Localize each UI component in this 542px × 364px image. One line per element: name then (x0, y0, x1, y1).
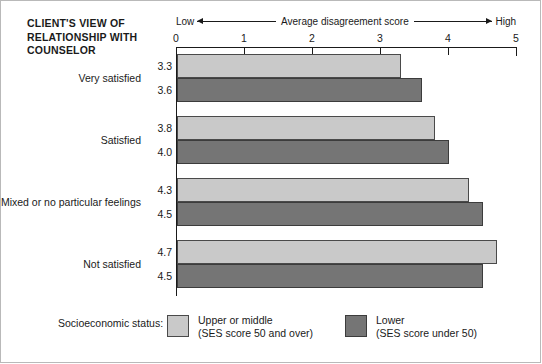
axis-caption-high: High (492, 16, 516, 27)
bar: 3.3 (177, 54, 401, 78)
category-label: Not satisfied (0, 258, 141, 271)
legend: Socioeconomic status: Upper or middle(SE… (0, 310, 542, 352)
bar-value-label: 3.6 (157, 84, 172, 96)
bar-value-label: 4.5 (157, 270, 172, 282)
legend-label-main: Lower (376, 314, 477, 327)
x-axis-tick-label: 2 (309, 32, 315, 44)
x-axis-tick-label: 1 (241, 32, 247, 44)
axis-caption-middle: Average disagreement score (276, 16, 414, 27)
category-label: Very satisfied (0, 72, 141, 85)
x-axis-tick (516, 47, 517, 56)
legend-item: Upper or middle(SES score 50 and over) (167, 314, 313, 340)
legend-label-sub: (SES score 50 and over) (198, 327, 313, 340)
bar: 4.5 (177, 264, 483, 288)
category-label: Satisfied (0, 134, 141, 147)
x-axis-tick-label: 3 (377, 32, 383, 44)
legend-label-main: Upper or middle (198, 314, 313, 327)
x-axis-tick-label: 0 (173, 32, 179, 44)
bar: 4.5 (177, 202, 483, 226)
x-axis-tick-labels: 012345 (0, 32, 542, 46)
bar: 4.3 (177, 178, 469, 202)
legend-label: Upper or middle(SES score 50 and over) (198, 314, 313, 340)
bar-value-label: 3.8 (157, 122, 172, 134)
page-title-line-1: CLIENT'S VIEW OF (27, 17, 167, 31)
bar-value-label: 4.3 (157, 184, 172, 196)
bar: 4.0 (177, 140, 449, 164)
bar: 4.7 (177, 240, 497, 264)
legend-label-sub: (SES score under 50) (376, 327, 477, 340)
legend-item: Lower(SES score under 50) (345, 314, 477, 340)
bar-value-label: 3.3 (157, 60, 172, 72)
legend-label: Lower(SES score under 50) (376, 314, 477, 340)
legend-swatch (345, 315, 367, 337)
legend-title: Socioeconomic status: (58, 317, 163, 329)
arrow-left-icon (197, 21, 276, 22)
bar: 3.6 (177, 78, 422, 102)
category-labels: Very satisfiedSatisfiedMixed or no parti… (0, 47, 141, 296)
category-label: Mixed or no particular feelings (0, 196, 141, 209)
arrow-right-icon (414, 21, 493, 22)
plot-area: 3.33.63.84.04.34.54.74.5 (176, 47, 516, 296)
legend-swatch (167, 315, 189, 337)
axis-caption-low: Low (176, 16, 197, 27)
bar-value-label: 4.5 (157, 208, 172, 220)
bar-value-label: 4.0 (157, 146, 172, 158)
x-axis-tick-label: 5 (513, 32, 519, 44)
axis-caption: Low Average disagreement score High (176, 13, 516, 29)
x-axis-tick-label: 4 (445, 32, 451, 44)
bar-value-label: 4.7 (157, 246, 172, 258)
bar: 3.8 (177, 116, 435, 140)
